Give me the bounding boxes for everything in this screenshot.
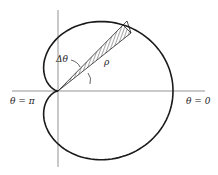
theta-zero-label: θ = 0 [186, 96, 211, 106]
polar-diagram: Δθ ρ θ = π θ = 0 [0, 0, 218, 175]
hatched-wedge [58, 25, 131, 91]
theta-pi-label: θ = π [10, 96, 36, 106]
rho-label: ρ [103, 57, 110, 67]
angle-arc [88, 73, 91, 84]
delta-theta-pointer [71, 60, 80, 67]
delta-theta-label: Δθ [55, 54, 68, 64]
